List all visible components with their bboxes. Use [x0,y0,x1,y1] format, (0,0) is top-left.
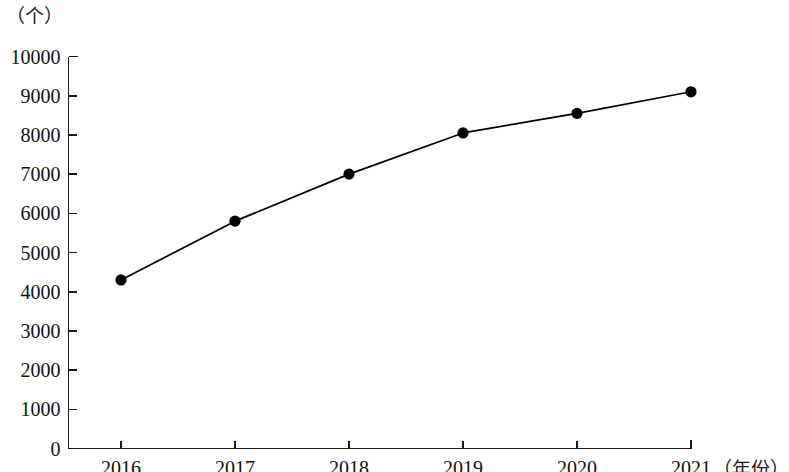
y-axis-tick-label: 9000 [0,86,61,106]
data-point-marker [343,169,354,180]
y-axis-tick-label: 7000 [0,164,61,184]
y-axis-tick-label: 1000 [0,399,61,419]
data-series-group [121,92,691,280]
y-axis-tick-label: 8000 [0,125,61,145]
y-axis-tick-label: 0 [0,439,61,459]
x-axis-tick-label: 2018 [329,458,369,472]
y-axis-tick-label: 4000 [0,282,61,302]
data-point-marker [571,108,582,119]
y-axis-tick-label: 10000 [0,47,61,67]
chart-plot-area [0,0,789,472]
data-point-marker [685,86,696,97]
data-point-marker [115,274,126,285]
x-axis-tick-label: 2017 [215,458,255,472]
data-point-marker [457,127,468,138]
line-chart-figure: （个） （年份） 0100020003000400050006000700080… [0,0,789,472]
data-line [121,92,691,280]
x-axis-tick-label: 2021 [671,458,711,472]
x-axis-tick-label: 2019 [443,458,483,472]
axes-group [69,57,692,449]
y-axis-tick-label: 5000 [0,243,61,263]
data-markers-group [115,86,696,285]
axis-ticks-group [69,96,578,449]
y-axis-tick-label: 3000 [0,321,61,341]
y-axis-tick-label: 2000 [0,360,61,380]
x-axis-tick-label: 2016 [101,458,141,472]
x-axis-tick-label: 2020 [557,458,597,472]
y-axis-tick-label: 6000 [0,203,61,223]
data-point-marker [229,216,240,227]
